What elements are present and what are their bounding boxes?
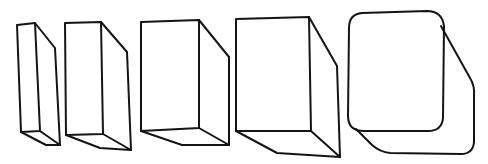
background xyxy=(0,0,488,164)
box-sketch-illustration xyxy=(0,0,488,164)
